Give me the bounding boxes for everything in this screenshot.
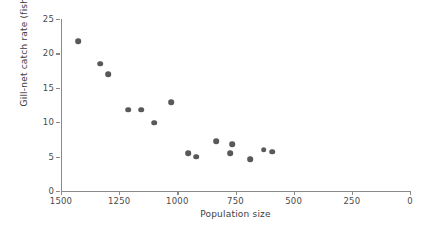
data-point — [185, 150, 191, 156]
scatter-chart: 1500125010007505002500 0510152025 Popula… — [0, 0, 429, 234]
data-point — [269, 149, 275, 155]
y-axis-title: Gill-net catch rate (fish/net) — [19, 0, 29, 121]
data-point — [261, 147, 267, 153]
data-point — [97, 61, 103, 67]
data-point — [125, 107, 131, 113]
data-point — [227, 150, 233, 156]
data-point — [105, 71, 111, 77]
x-axis-title: Population size — [61, 209, 410, 219]
data-point — [213, 139, 219, 145]
data-point — [75, 38, 81, 44]
data-point — [229, 141, 235, 147]
data-point — [168, 99, 174, 105]
data-point — [193, 154, 199, 160]
data-point-layer — [0, 0, 429, 234]
data-point — [138, 107, 144, 113]
data-point — [151, 120, 157, 126]
data-point — [247, 157, 253, 163]
